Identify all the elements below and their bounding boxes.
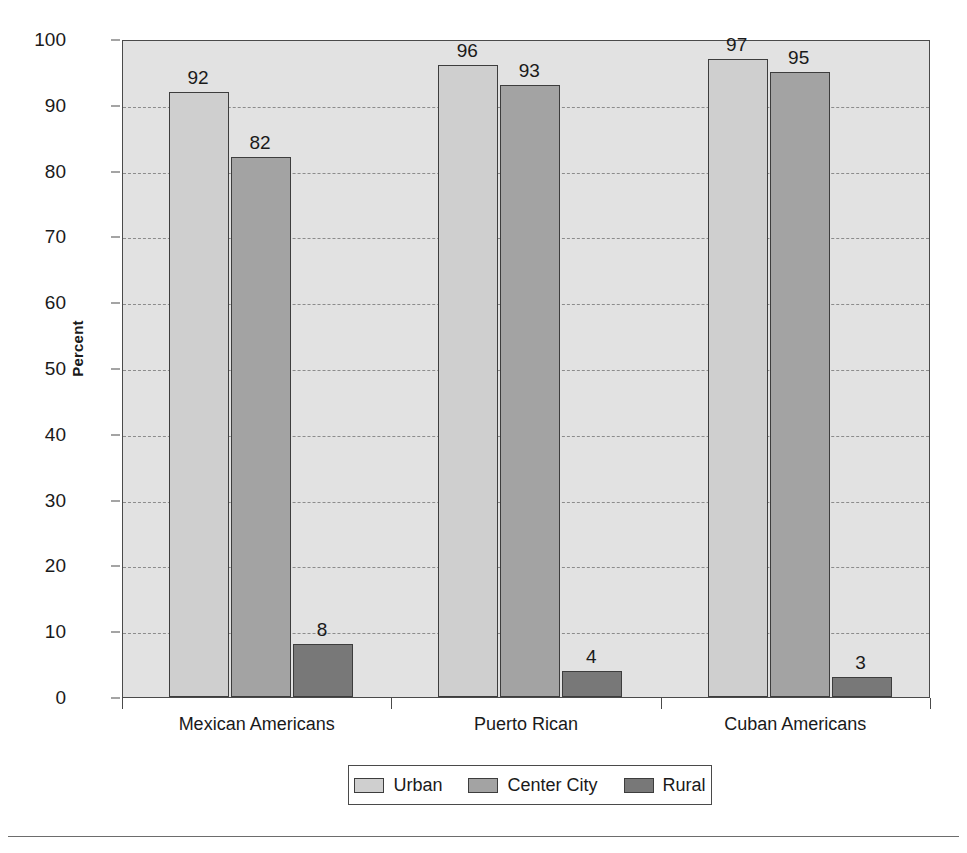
x-tick-mark [122, 698, 123, 709]
bar-center-city [500, 85, 560, 697]
y-tick-mark [111, 105, 120, 106]
legend-label: Rural [663, 775, 706, 796]
y-tick-mark [111, 698, 120, 699]
bar-value-label: 8 [317, 619, 328, 641]
x-tick-mark [930, 698, 931, 709]
legend-item-rural: Rural [624, 775, 706, 796]
legend-swatch-icon [624, 778, 654, 793]
legend-item-urban: Urban [354, 775, 442, 796]
y-axis-title: Percent [69, 304, 86, 394]
bar-value-label: 3 [855, 652, 866, 674]
legend: UrbanCenter CityRural [348, 765, 712, 805]
y-tick-label: 100 [14, 29, 66, 51]
y-tick-mark [111, 40, 120, 41]
x-category-label: Cuban Americans [724, 714, 866, 735]
bar-center-city [231, 157, 291, 697]
bar-value-label: 93 [519, 60, 540, 82]
y-tick-mark [111, 237, 120, 238]
y-tick-label: 0 [14, 687, 66, 709]
y-tick-mark [111, 171, 120, 172]
bar-value-label: 97 [726, 34, 747, 56]
x-tick-mark [391, 698, 392, 709]
bar-center-city [770, 72, 830, 697]
legend-item-center-city: Center City [468, 775, 597, 796]
y-tick-mark [111, 369, 120, 370]
y-tick-mark [111, 632, 120, 633]
bar-chart-figure: Percent 1009080706050403020100 928289693… [0, 0, 967, 853]
bar-urban [169, 92, 229, 697]
bar-urban [438, 65, 498, 697]
y-tick-label: 90 [14, 95, 66, 117]
bar-rural [562, 671, 622, 697]
y-tick-label: 10 [14, 621, 66, 643]
y-tick-mark [111, 303, 120, 304]
bar-value-label: 4 [586, 646, 597, 668]
bar-value-label: 82 [249, 132, 270, 154]
plot-area [122, 40, 930, 698]
x-tick-mark [661, 698, 662, 709]
y-tick-label: 40 [14, 424, 66, 446]
y-tick-label: 20 [14, 555, 66, 577]
y-tick-label: 80 [14, 161, 66, 183]
bar-value-label: 96 [457, 40, 478, 62]
legend-label: Urban [393, 775, 442, 796]
y-tick-mark [111, 434, 120, 435]
y-tick-label: 30 [14, 490, 66, 512]
y-tick-label: 70 [14, 226, 66, 248]
x-category-label: Mexican Americans [179, 714, 335, 735]
bottom-divider [8, 836, 959, 837]
bar-rural [832, 677, 892, 697]
x-category-label: Puerto Rican [474, 714, 578, 735]
y-tick-mark [111, 566, 120, 567]
legend-swatch-icon [354, 778, 384, 793]
bar-urban [708, 59, 768, 697]
bar-value-label: 92 [187, 67, 208, 89]
y-tick-label: 60 [14, 292, 66, 314]
y-tick-label: 50 [14, 358, 66, 380]
legend-swatch-icon [468, 778, 498, 793]
y-tick-mark [111, 500, 120, 501]
bar-value-label: 95 [788, 47, 809, 69]
bar-rural [293, 644, 353, 697]
legend-label: Center City [507, 775, 597, 796]
